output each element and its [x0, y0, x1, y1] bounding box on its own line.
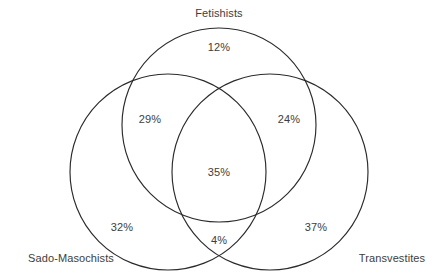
set-label-fetishists: Fetishists [195, 7, 242, 19]
region-value-sado-transvestites: 4% [211, 234, 227, 246]
region-value-sado-fetishists: 29% [139, 113, 161, 125]
circle-transvestites [172, 74, 368, 270]
venn-diagram-figure: Fetishists Sado-Masochists Transvestites… [0, 0, 437, 280]
region-value-transvestites-only: 37% [305, 221, 327, 233]
set-label-transvestites: Transvestites [359, 252, 425, 264]
circle-fetishists [122, 28, 316, 222]
region-value-sado-only: 32% [111, 221, 133, 233]
region-value-all-three: 35% [208, 166, 230, 178]
region-value-fetishists-transvestites: 24% [278, 113, 300, 125]
circle-sado-masochists [70, 74, 266, 270]
region-value-fetishists-only: 12% [208, 41, 230, 53]
set-label-sado-masochists: Sado-Masochists [28, 252, 114, 264]
